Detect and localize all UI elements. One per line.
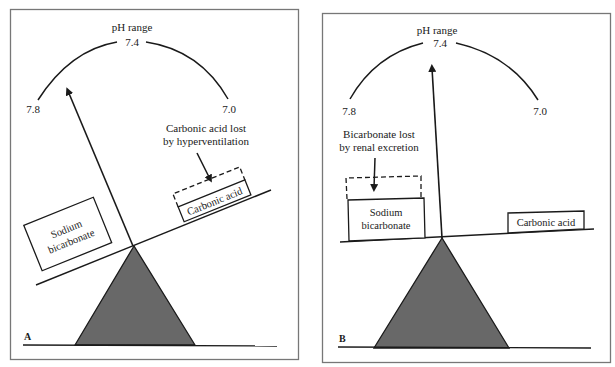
panel-b-ph-right: 7.0	[533, 105, 547, 117]
panel-a-ph-right: 7.0	[222, 103, 236, 115]
panel-a-fulcrum	[75, 246, 195, 345]
panel-b-annotation-arrow	[374, 158, 375, 188]
panel-b-annotation-line2: by renal excretion	[339, 141, 419, 153]
panel-b-pointer-arrow	[432, 68, 442, 238]
panel-b-ph-arc-right	[456, 43, 538, 100]
svg-text:Sodium: Sodium	[370, 207, 403, 218]
panel-a-annotation-line2: by hyperventilation	[163, 135, 249, 147]
panel-a-title: pH range	[112, 21, 153, 33]
panel-a: pH range 7.4 7.8 7.0 A Sodium bicarbonat…	[11, 10, 299, 360]
panel-a-annotation-arrow	[197, 153, 210, 179]
panel-b-ph-center: 7.4	[433, 37, 447, 49]
svg-text:Carbonic acid: Carbonic acid	[517, 217, 576, 228]
panel-b: pH range 7.4 7.8 7.0 B Sodium bicarbonat…	[323, 14, 611, 363]
panel-a-ph-center: 7.4	[125, 36, 139, 48]
panel-b-title: pH range	[417, 24, 458, 36]
panel-b-annotation-line1: Bicarbonate lost	[343, 128, 415, 140]
panel-b-fulcrum	[374, 238, 509, 348]
panel-b-lost-bicarbonate-dashed	[346, 176, 421, 199]
panel-b-ph-arc-left	[350, 43, 423, 99]
panel-a-ph-left: 7.8	[26, 103, 40, 115]
panel-b-letter: B	[339, 333, 346, 344]
panel-b-sodium-bicarbonate-weight: Sodium bicarbonate	[346, 176, 425, 241]
panel-b-ph-left: 7.8	[342, 105, 356, 117]
panel-a-ph-arc-left	[38, 42, 117, 100]
panel-a-annotation-line1: Carbonic acid lost	[166, 122, 246, 134]
panel-a-ph-arc-right	[146, 42, 228, 99]
panel-b-carbonic-acid-weight: Carbonic acid	[508, 211, 584, 233]
panel-a-letter: A	[24, 331, 32, 342]
panel-a-ground-line	[23, 345, 277, 346]
svg-text:bicarbonate: bicarbonate	[362, 220, 411, 231]
